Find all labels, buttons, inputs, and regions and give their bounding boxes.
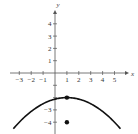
y-tick-label: −3 <box>44 106 52 114</box>
y-tick-label: 3 <box>48 33 52 41</box>
x-tick-label: 4 <box>101 76 105 84</box>
x-axis-arrow-icon <box>125 71 129 75</box>
y-axis-arrow-icon <box>53 10 57 14</box>
y-tick-label: 2 <box>48 45 52 53</box>
x-tick-label: −3 <box>16 76 24 84</box>
x-tick-label: 1 <box>65 76 69 84</box>
y-tick-label: 1 <box>48 57 52 65</box>
point-vertex <box>65 95 69 99</box>
y-tick-label: −4 <box>44 119 52 127</box>
points <box>65 95 69 124</box>
x-axis-label: x <box>130 70 135 78</box>
point-point <box>65 120 69 124</box>
y-tick-label: 4 <box>48 20 52 28</box>
x-tick-label: −2 <box>27 76 35 84</box>
x-tick-label: −1 <box>39 76 47 84</box>
y-axis-label: y <box>56 1 61 9</box>
x-tick-label: 5 <box>113 76 117 84</box>
coordinate-plane: xy −3−2−1123454321−3−4 <box>0 0 138 134</box>
x-tick-label: 2 <box>77 76 81 84</box>
x-tick-label: 3 <box>89 76 93 84</box>
